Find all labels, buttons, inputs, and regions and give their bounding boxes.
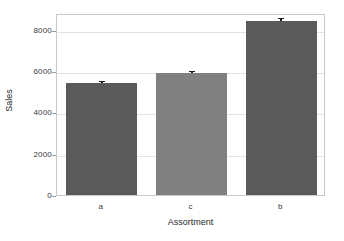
error-bar-cap-b [278,18,284,19]
x-axis-title: Assortment [56,218,325,227]
x-axis-tick-label-b: b [260,203,300,211]
y-axis-title: Sales [5,71,14,131]
error-bar-cap-a [99,81,105,82]
plot-area [56,14,325,196]
bar-c[interactable] [156,73,227,196]
y-axis-tick-mark [52,196,56,197]
bar-a[interactable] [66,83,137,196]
bar-chart: Sales 02000400060008000 acb Assortment [0,0,344,241]
y-axis-tick-label: 0 [12,192,52,200]
y-axis-tick-label: 8000 [12,27,52,35]
x-axis-tick-label-c: c [171,203,211,211]
bar-b[interactable] [246,21,317,196]
y-axis-tick-label: 4000 [12,109,52,117]
y-axis-tick-label: 6000 [12,68,52,76]
y-axis-tick-label: 2000 [12,151,52,159]
error-bar-cap-c [189,71,195,72]
x-axis-tick-label-a: a [81,203,121,211]
